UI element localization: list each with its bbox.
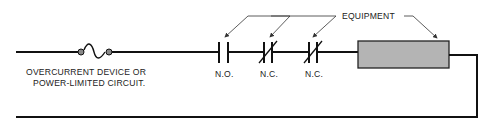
overcurrent-label-line2: POWER-LIMITED CIRCUIT. bbox=[33, 78, 145, 88]
equipment-label: EQUIPMENT bbox=[342, 11, 395, 21]
normally-open-contact-icon bbox=[219, 42, 228, 63]
overcurrent-label-line1: OVERCURRENT DEVICE OR bbox=[26, 67, 146, 77]
fuse-icon bbox=[78, 44, 112, 58]
circuit-diagram: EQUIPMENT OVERCURRENT DEVICE OR POWER-LI… bbox=[0, 0, 492, 125]
contact-label-no: N.O. bbox=[215, 69, 233, 79]
equipment-load-box bbox=[358, 41, 449, 68]
contact-label-nc-1: N.C. bbox=[260, 69, 278, 79]
equipment-leader-lines bbox=[225, 16, 437, 38]
contact-label-nc-2: N.C. bbox=[305, 69, 323, 79]
